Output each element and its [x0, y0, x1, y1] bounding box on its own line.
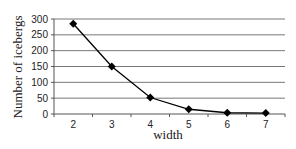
y-tick-label: 200: [31, 45, 48, 56]
data-point-marker: [185, 105, 193, 113]
y-tick-label: 300: [31, 14, 48, 25]
chart: 050100150200250300 234567 width Number o…: [0, 0, 296, 149]
x-tick-label: 5: [186, 119, 192, 130]
x-tick-label: 3: [109, 119, 115, 130]
y-tick-labels: 050100150200250300: [31, 14, 48, 120]
gridlines: [54, 19, 285, 98]
y-tick-label: 250: [31, 29, 48, 40]
x-axis-label: width: [153, 127, 183, 142]
y-tick-label: 100: [31, 77, 48, 88]
x-tick-label: 2: [70, 119, 76, 130]
y-axis-label: Number of icebergs: [10, 15, 25, 118]
data-point-marker: [223, 109, 231, 117]
y-tick-label: 0: [42, 109, 48, 120]
series-line: [73, 24, 266, 113]
y-tick-label: 150: [31, 61, 48, 72]
x-tick-label: 7: [263, 119, 269, 130]
x-tick-label: 6: [224, 119, 230, 130]
y-tick-label: 50: [37, 93, 49, 104]
data-point-marker: [262, 109, 270, 117]
